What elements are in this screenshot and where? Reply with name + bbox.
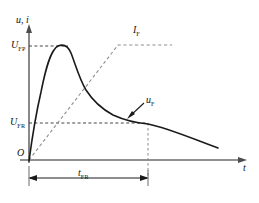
uf-pointer-arrow (127, 103, 144, 119)
forward-recovery-diagram: u, i UFP UFR O IF uF tFR t (0, 0, 259, 203)
current-subscript: F (136, 30, 140, 37)
ufp-subscript: FP (18, 45, 25, 52)
origin-label: O (17, 148, 24, 158)
current-curve-label: IF (133, 25, 140, 37)
voltage-subscript: F (151, 100, 155, 107)
x-axis (20, 157, 247, 163)
diagram-canvas (0, 0, 259, 203)
tfr-subscript: FR (81, 173, 89, 180)
y-axis-label-i: i (26, 14, 29, 25)
uf-curve (29, 45, 218, 161)
voltage-curve-label: uF (146, 95, 155, 107)
ufr-subscript: FR (17, 122, 25, 129)
x-axis-label: t (243, 163, 246, 173)
y-axis-arrow (26, 24, 32, 33)
y-axis-label: u, i (16, 15, 29, 25)
ufp-level-label: UFP (11, 40, 26, 52)
ufr-level-label: UFR (10, 117, 25, 129)
tfr-dimension-label: tFR (78, 168, 89, 180)
